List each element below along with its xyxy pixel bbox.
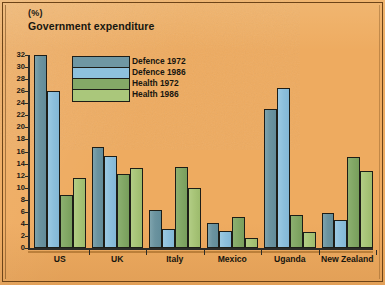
- x-axis-separator-0: [89, 250, 90, 255]
- y-axis-tickmark-20: [25, 127, 28, 128]
- x-axis-label-new-zealand: New Zealand: [321, 254, 374, 264]
- bar-uganda-defence-1972: [264, 109, 277, 248]
- y-axis-tickmark-32: [25, 55, 28, 56]
- bar-uk-defence-1986: [104, 156, 117, 248]
- bar-uk-health-1972: [117, 174, 130, 248]
- y-axis-tick-18: 18: [17, 136, 25, 144]
- x-axis-separator-2: [204, 250, 205, 255]
- y-axis-tickmark-28: [25, 79, 28, 80]
- y-axis-tick-10: 10: [17, 184, 25, 192]
- x-axis-separator-3: [261, 250, 262, 255]
- bar-uganda-health-1986: [303, 232, 316, 248]
- y-axis-tick-16: 16: [17, 148, 25, 156]
- legend-label-health-1972: Health 1972: [72, 78, 272, 89]
- bar-us-health-1986: [73, 178, 86, 248]
- x-axis-label-mexico: Mexico: [218, 254, 247, 264]
- chart-title: Government expenditure: [28, 20, 154, 32]
- y-axis-tickmark-2: [25, 236, 28, 237]
- y-axis-tickmark-22: [25, 115, 28, 116]
- y-axis-tickmark-24: [25, 103, 28, 104]
- bar-italy-health-1986: [188, 188, 201, 248]
- y-axis-unit-label: (%): [28, 8, 43, 18]
- y-axis-tickmark-30: [25, 67, 28, 68]
- y-axis-tick-28: 28: [17, 75, 25, 83]
- y-axis-tick-12: 12: [17, 172, 25, 180]
- y-axis-tick-32: 32: [17, 51, 25, 59]
- bar-uk-health-1986: [130, 168, 143, 248]
- x-axis-shadow: [28, 251, 373, 253]
- y-axis-tickmark-12: [25, 176, 28, 177]
- y-axis-tick-22: 22: [17, 112, 25, 120]
- chart-legend-labels: Defence 1972Defence 1986Health 1972Healt…: [72, 56, 272, 100]
- bar-new-zealand-health-1972: [347, 157, 360, 248]
- bar-italy-defence-1986: [162, 229, 175, 248]
- bar-uk-defence-1972: [92, 147, 105, 248]
- x-axis-separator-1: [146, 250, 147, 255]
- bar-uganda-defence-1986: [277, 88, 290, 248]
- y-axis-tick-20: 20: [17, 124, 25, 132]
- bar-new-zealand-defence-1972: [322, 213, 335, 248]
- y-axis-tickmark-10: [25, 188, 28, 189]
- x-axis-separator-4: [319, 250, 320, 255]
- y-axis-tick-14: 14: [17, 160, 25, 168]
- x-axis-label-us: US: [54, 254, 66, 264]
- bar-us-defence-1972: [34, 55, 47, 248]
- legend-label-defence-1972: Defence 1972: [72, 56, 272, 67]
- x-axis-separator-5: [376, 250, 377, 255]
- bar-mexico-health-1986: [245, 238, 258, 248]
- y-axis-tickmark-16: [25, 152, 28, 153]
- x-axis-label-uganda: Uganda: [274, 254, 306, 264]
- bar-new-zealand-defence-1986: [334, 220, 347, 248]
- x-axis-label-uk: UK: [111, 254, 123, 264]
- bar-mexico-defence-1986: [219, 231, 232, 248]
- y-axis-tickmark-0: [25, 248, 28, 249]
- x-axis-label-italy: Italy: [166, 254, 183, 264]
- bar-italy-defence-1972: [149, 210, 162, 248]
- bar-italy-health-1972: [175, 167, 188, 248]
- bar-us-health-1972: [60, 195, 73, 248]
- bar-group-new-zealand: [322, 55, 374, 248]
- y-axis-tickmark-26: [25, 91, 28, 92]
- y-axis-tickmark-6: [25, 212, 28, 213]
- y-axis-tickmark-8: [25, 200, 28, 201]
- y-axis-tickmark-4: [25, 224, 28, 225]
- y-axis-tick-26: 26: [17, 87, 25, 95]
- y-axis-tick-30: 30: [17, 63, 25, 71]
- bar-uganda-health-1972: [290, 215, 303, 248]
- bar-mexico-health-1972: [232, 217, 245, 248]
- bar-new-zealand-health-1986: [360, 171, 373, 248]
- legend-label-health-1986: Health 1986: [72, 89, 272, 100]
- legend-label-defence-1986: Defence 1986: [72, 67, 272, 78]
- bar-us-defence-1986: [47, 91, 60, 248]
- y-axis-tickmark-18: [25, 139, 28, 140]
- bar-mexico-defence-1972: [207, 223, 220, 248]
- y-axis-tick-24: 24: [17, 99, 25, 107]
- x-axis-line: [28, 248, 373, 250]
- y-axis-tickmark-14: [25, 164, 28, 165]
